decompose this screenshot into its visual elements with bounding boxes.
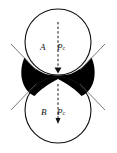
label-pressure-lower-subscript: c [63,110,66,116]
label-pressure-upper-subscript: c [63,45,66,51]
label-region-b: B [41,108,47,117]
capillary-bridge-diagram [0,0,117,153]
label-pressure-upper: Pc [57,43,65,52]
label-pressure-lower: Pc [57,108,65,117]
label-region-a: A [40,43,46,52]
